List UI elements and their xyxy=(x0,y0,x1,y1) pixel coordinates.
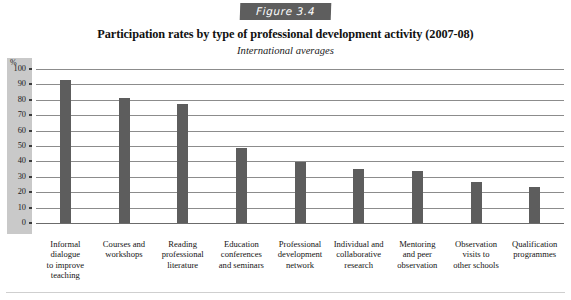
y-axis-tick-label: 60 xyxy=(2,127,26,135)
x-axis-category-label: Courses andworkshops xyxy=(95,239,154,260)
x-axis-category-label: Individual andcollaborativeresearch xyxy=(329,239,388,270)
chart-subtitle: International averages xyxy=(0,45,571,56)
y-axis-tick-label: 40 xyxy=(2,157,26,165)
bar xyxy=(471,182,482,223)
y-axis-tick-mark xyxy=(29,99,32,101)
chart-title: Participation rates by type of professio… xyxy=(0,27,571,42)
bar xyxy=(60,80,71,223)
bar xyxy=(236,148,247,223)
y-axis-tick-label: 10 xyxy=(2,204,26,212)
figure-badge-label: Figure 3.4 xyxy=(240,3,332,20)
figure-badge-container: Figure 3.4 xyxy=(0,0,571,20)
x-axis-category-label: Educationconferencesand seminars xyxy=(212,239,271,270)
gridline xyxy=(36,84,564,85)
bar xyxy=(529,187,540,223)
y-axis-tick-label: 20 xyxy=(2,188,26,196)
x-axis-category-label: Observationvisits toother schools xyxy=(447,239,506,270)
page-bottom-rule xyxy=(6,292,565,293)
gridline xyxy=(36,131,564,132)
gridline xyxy=(36,146,564,147)
bar xyxy=(177,104,188,223)
gridline xyxy=(36,223,564,224)
y-axis-tick-mark xyxy=(29,160,32,162)
y-axis-tick-label: 100 xyxy=(2,65,26,73)
bar xyxy=(353,169,364,223)
x-axis-category-label: Informaldialogueto improveteaching xyxy=(36,239,95,281)
y-axis-tick-mark xyxy=(29,114,32,116)
y-axis-tick-label: 50 xyxy=(2,142,26,150)
bar xyxy=(119,98,130,223)
y-axis-tick-mark xyxy=(29,83,32,85)
x-axis-category-label: Readingprofessionalliterature xyxy=(153,239,212,270)
y-axis-tick-label: 30 xyxy=(2,173,26,181)
y-axis-tick-mark xyxy=(29,145,32,147)
gridline xyxy=(36,100,564,101)
y-axis-tick-mark xyxy=(29,191,32,193)
y-axis-tick-label: 80 xyxy=(2,96,26,104)
y-axis-tick-label: 70 xyxy=(2,111,26,119)
y-axis-tick-mark xyxy=(29,68,32,70)
y-axis-tick-mark xyxy=(29,207,32,209)
gridline xyxy=(36,115,564,116)
y-axis-tick-mark xyxy=(29,222,32,224)
y-axis-tick-label: 90 xyxy=(2,80,26,88)
x-axis-category-label: Professionaldevelopmentnetwork xyxy=(271,239,330,270)
bar xyxy=(295,162,306,223)
y-axis-tick-label: 0 xyxy=(2,219,26,227)
y-axis-tick-mark xyxy=(29,176,32,178)
chart-area: % 1009080706050403020100Informaldialogue… xyxy=(0,58,571,284)
bar xyxy=(412,171,423,223)
gridline xyxy=(36,69,564,70)
plot-region: 1009080706050403020100Informaldialogueto… xyxy=(36,69,564,223)
y-axis-tick-mark xyxy=(29,130,32,132)
x-axis-category-label: Qualificationprogrammes xyxy=(505,239,564,260)
x-axis-category-label: Mentoringand peerobservation xyxy=(388,239,447,270)
